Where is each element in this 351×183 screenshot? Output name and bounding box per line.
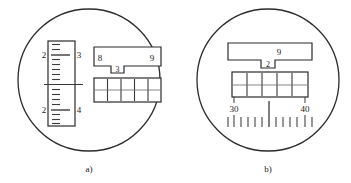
upper-bar-right-label: 9: [150, 53, 155, 63]
panel-b-lower-scale-bar: [232, 72, 308, 97]
figure-container: 2 3 2 4 8 9 3: [0, 0, 351, 183]
panel-b-caption: b): [264, 164, 272, 174]
panel-a-caption: a): [86, 164, 93, 174]
horizontal-scale-right-label: 40: [301, 104, 311, 114]
vertical-scale-top-right-label: 3: [77, 50, 82, 60]
upper-bar-center-label: 9: [277, 47, 282, 57]
panel-b-upper-index-bar: 9 2: [228, 43, 312, 69]
panel-a-lower-scale-bar: [94, 78, 161, 102]
upper-bar-left-label: 8: [98, 53, 103, 63]
vertical-ruler: 2 3 2 4: [42, 41, 83, 126]
lower-scale-bar-outline: [232, 72, 308, 97]
optical-scale-figure: 2 3 2 4 8 9 3: [0, 0, 351, 183]
vertical-scale-bottom-left-label: 2: [42, 105, 47, 115]
upper-bar-notch-label: 3: [116, 65, 120, 74]
vertical-ruler-body: [48, 41, 75, 126]
panel-b: 9 2 30 40: [197, 9, 339, 174]
vertical-scale-bottom-right-label: 4: [77, 105, 82, 115]
horizontal-scale-ticks: [228, 115, 312, 127]
panel-a: 2 3 2 4 8 9 3: [18, 9, 161, 174]
horizontal-scale-left-label: 30: [230, 104, 240, 114]
upper-index-bar-outline: [228, 43, 312, 68]
vertical-scale-top-left-label: 2: [42, 50, 47, 60]
panel-a-upper-index-bar: 8 9 3: [94, 47, 161, 74]
upper-bar-notch-label: 2: [266, 60, 270, 69]
